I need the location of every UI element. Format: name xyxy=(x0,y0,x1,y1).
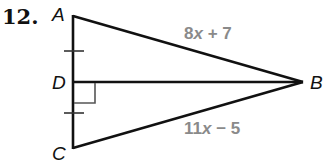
problem-number: 12. xyxy=(2,4,39,29)
side-cb-expression: 11x − 5 xyxy=(184,119,240,138)
vertex-label-a: A xyxy=(51,4,65,25)
triangle-diagram: 12. A D C B 8x + 7 11x − 5 xyxy=(0,0,332,165)
segment-cb xyxy=(73,82,303,148)
vertex-label-b: B xyxy=(310,72,323,93)
right-angle-mark xyxy=(74,83,95,103)
vertex-label-d: D xyxy=(52,72,66,93)
side-ab-expression: 8x + 7 xyxy=(184,24,232,43)
geometry-figure: 12. A D C B 8x + 7 11x − 5 xyxy=(0,0,332,165)
vertex-label-c: C xyxy=(52,143,66,164)
